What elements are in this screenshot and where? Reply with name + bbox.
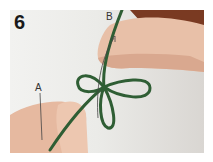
- bottom-loop: [101, 87, 114, 128]
- step-number: 6: [14, 12, 25, 32]
- label-b: B: [106, 12, 113, 22]
- knot-step-photo: 6 A B: [10, 10, 204, 153]
- label-a: A: [35, 83, 42, 93]
- right-loop: [104, 80, 150, 97]
